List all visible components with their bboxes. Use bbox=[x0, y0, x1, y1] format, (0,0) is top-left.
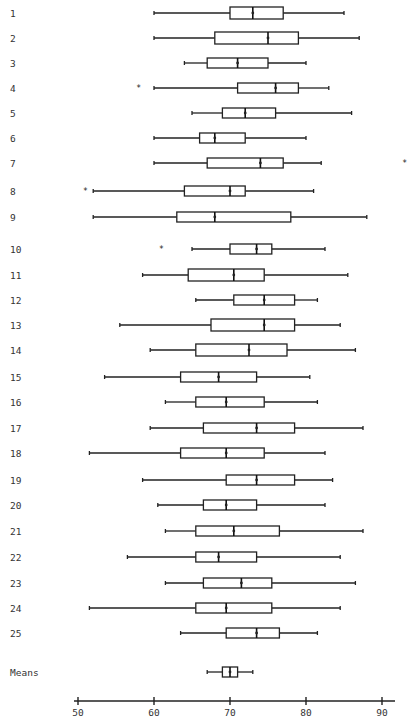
iqr-box bbox=[196, 397, 264, 407]
iqr-box bbox=[230, 7, 283, 19]
row-label: 1 bbox=[10, 8, 16, 19]
box-row: 12 bbox=[10, 295, 317, 306]
row-label: 6 bbox=[10, 133, 16, 144]
iqr-box bbox=[230, 244, 272, 254]
iqr-box bbox=[207, 158, 283, 168]
row-label: 3 bbox=[10, 58, 16, 69]
box-row: 18 bbox=[10, 448, 325, 459]
median-marker bbox=[244, 112, 247, 115]
iqr-box bbox=[226, 475, 294, 485]
median-marker bbox=[232, 274, 235, 277]
row-label: 7 bbox=[10, 158, 16, 169]
box-plot-rows: 1234*567*8*910*1112131415161718192021222… bbox=[10, 7, 407, 678]
median-marker bbox=[248, 349, 251, 352]
box-row: 10* bbox=[10, 244, 325, 255]
box-row: 2 bbox=[10, 32, 359, 44]
box-row: 16 bbox=[10, 397, 317, 408]
row-label: 23 bbox=[10, 578, 21, 589]
box-row: 11 bbox=[10, 269, 348, 281]
iqr-box bbox=[188, 269, 264, 281]
row-label: 14 bbox=[10, 345, 22, 356]
median-marker bbox=[240, 582, 243, 585]
iqr-box bbox=[238, 83, 299, 93]
x-tick-label: 60 bbox=[148, 707, 160, 718]
x-tick-label: 50 bbox=[72, 707, 84, 718]
row-label: 15 bbox=[10, 372, 21, 383]
median-marker bbox=[255, 479, 258, 482]
box-row: 5 bbox=[10, 108, 352, 119]
box-row: 15 bbox=[10, 372, 310, 383]
row-label: 18 bbox=[10, 448, 22, 459]
row-label: 22 bbox=[10, 552, 21, 563]
median-marker bbox=[255, 248, 258, 251]
box-row: 22 bbox=[10, 552, 340, 563]
row-label: 24 bbox=[10, 603, 22, 614]
median-marker bbox=[259, 162, 262, 165]
iqr-box bbox=[196, 526, 280, 536]
outlier-marker: * bbox=[136, 84, 141, 93]
outlier-marker: * bbox=[159, 245, 164, 254]
median-marker bbox=[274, 87, 277, 90]
x-tick-label: 80 bbox=[300, 707, 312, 718]
row-label: 9 bbox=[10, 212, 16, 223]
box-row: 6 bbox=[10, 133, 306, 144]
outlier-marker: * bbox=[402, 159, 407, 168]
median-marker bbox=[229, 671, 232, 674]
box-row: 7* bbox=[10, 158, 407, 169]
row-label: 21 bbox=[10, 526, 22, 537]
row-label: 2 bbox=[10, 33, 16, 44]
row-label: 8 bbox=[10, 186, 16, 197]
box-row: 20 bbox=[10, 500, 325, 511]
iqr-box bbox=[203, 423, 294, 433]
row-label: 4 bbox=[10, 83, 16, 94]
median-marker bbox=[232, 530, 235, 533]
iqr-box bbox=[196, 344, 287, 356]
box-row: 17 bbox=[10, 423, 363, 434]
median-marker bbox=[217, 556, 220, 559]
iqr-box bbox=[181, 448, 265, 458]
median-marker bbox=[251, 12, 254, 15]
iqr-box bbox=[211, 319, 295, 331]
median-marker bbox=[225, 607, 228, 610]
iqr-box bbox=[196, 552, 257, 562]
box-row: 13 bbox=[10, 319, 340, 331]
row-label: 25 bbox=[10, 628, 21, 639]
box-row: 3 bbox=[10, 58, 306, 69]
row-label: 16 bbox=[10, 397, 22, 408]
row-label: Means bbox=[10, 667, 39, 678]
box-row: 24 bbox=[10, 603, 340, 614]
median-marker bbox=[267, 37, 270, 40]
iqr-box bbox=[200, 133, 246, 143]
median-marker bbox=[255, 427, 258, 430]
median-marker bbox=[217, 376, 220, 379]
row-label: 5 bbox=[10, 108, 16, 119]
row-label: 10 bbox=[10, 244, 22, 255]
box-row: 9 bbox=[10, 212, 367, 223]
median-marker bbox=[229, 190, 232, 193]
box-row: Means bbox=[10, 667, 253, 678]
box-row: 19 bbox=[10, 475, 333, 486]
median-marker bbox=[225, 452, 228, 455]
row-label: 19 bbox=[10, 475, 22, 486]
row-label: 11 bbox=[10, 270, 22, 281]
box-row: 1 bbox=[10, 7, 344, 19]
median-marker bbox=[236, 62, 239, 65]
iqr-box bbox=[222, 108, 275, 118]
iqr-box bbox=[215, 32, 299, 44]
iqr-box bbox=[203, 500, 256, 510]
row-label: 17 bbox=[10, 423, 21, 434]
iqr-box bbox=[203, 578, 271, 588]
row-label: 13 bbox=[10, 320, 21, 331]
row-label: 12 bbox=[10, 295, 21, 306]
median-marker bbox=[263, 299, 266, 302]
median-marker bbox=[263, 324, 266, 327]
box-row: 25 bbox=[10, 628, 317, 639]
iqr-box bbox=[226, 628, 279, 638]
x-axis: 5060708090 bbox=[72, 697, 395, 718]
median-marker bbox=[225, 401, 228, 404]
box-plot-chart: 1234*567*8*910*1112131415161718192021222… bbox=[0, 0, 408, 725]
box-row: 4* bbox=[10, 83, 329, 94]
box-row: 8* bbox=[10, 186, 314, 197]
iqr-box bbox=[184, 186, 245, 196]
iqr-box bbox=[196, 603, 272, 613]
